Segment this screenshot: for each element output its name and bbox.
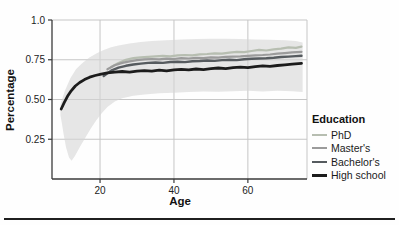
legend-title: Education <box>312 113 386 125</box>
legend-label-phd: PhD <box>331 129 351 141</box>
legend: Education PhD Master's Bachelor's High s… <box>312 113 386 182</box>
legend-label-masters: Master's <box>331 142 370 154</box>
y-tick-label: 0.25 <box>26 134 46 145</box>
legend-item-highschool: High school <box>312 169 386 183</box>
legend-item-bachelors: Bachelor's <box>312 155 386 169</box>
legend-item-phd: PhD <box>312 128 386 142</box>
legend-label-bachelors: Bachelor's <box>331 156 380 168</box>
legend-label-highschool: High school <box>331 169 386 181</box>
legend-swatch-highschool <box>312 174 327 177</box>
legend-swatch-bachelors <box>312 161 327 163</box>
legend-swatch-phd <box>312 134 327 136</box>
y-tick-label: 0.75 <box>26 54 46 65</box>
legend-item-masters: Master's <box>312 142 386 156</box>
y-tick-label: 1.0 <box>31 15 45 26</box>
legend-swatch-masters <box>312 147 327 149</box>
figure: 1.00.750.500.25204060 Percentage Age Edu… <box>0 0 399 225</box>
x-tick-label: 20 <box>94 185 106 196</box>
y-axis-title: Percentage <box>4 69 16 131</box>
x-tick-label: 60 <box>242 185 254 196</box>
y-tick-label: 0.50 <box>26 94 46 105</box>
x-axis-title: Age <box>169 195 191 207</box>
bottom-rule <box>4 218 395 220</box>
